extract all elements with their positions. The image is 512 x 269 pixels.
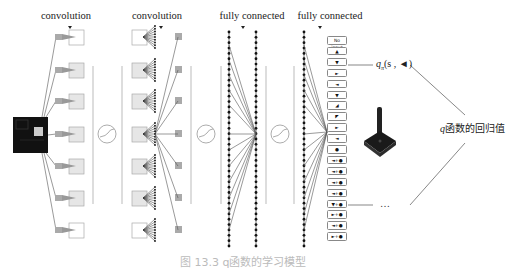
conv2-kernel [132,58,182,82]
q-regression-label: q函数的回归值 [440,120,505,135]
action-box: ▲ [327,47,347,56]
conv1-kernel [55,127,84,142]
conv1-kernel [55,94,84,109]
action-box: ► [327,123,347,132]
action-box-no-input: No input [327,36,347,45]
action-box: ◄+● [327,156,347,165]
more-actions-ellipsis: … [380,198,391,209]
separators [93,66,294,204]
action-box: ◤ [327,112,347,121]
action-box: ►+● [327,232,347,241]
action-box: ◄ [327,80,347,89]
fc-neuron-column [255,31,258,248]
action-box: ▼ [327,58,347,67]
conv2-kernel [132,25,182,49]
conv1-kernel [55,63,84,78]
conv2-kernel [132,218,182,242]
conv2-kernel [132,89,182,113]
input-frame-image [13,117,48,153]
label-arrow-icons [68,26,322,29]
activation-sigmoid-icon [98,125,289,143]
action-box: ● [327,145,347,154]
conv1-kernel [55,30,84,45]
conv2-kernel [132,154,182,178]
fully-connected-layers [228,31,327,248]
action-box: ▼+● [327,200,347,209]
action-box: ◄+● [327,221,347,230]
conv1-kernel [55,223,84,238]
conv1-kernel [55,159,84,174]
q-value-label: qπ(s , ◄) [376,58,412,71]
conv2-kernel [132,186,182,210]
action-box: ◄ [327,134,347,143]
conv1-layer [55,30,84,238]
conv2-layer [132,25,182,242]
action-box: ◢ [327,101,347,110]
figure-caption: 图 13.3 q函数的学习模型 [180,253,306,269]
conv1-kernel [55,191,84,206]
action-box: ◄+● [327,167,347,176]
action-box: ►+● [327,210,347,219]
action-box: ◄+● [327,178,347,187]
joystick-icon [364,107,396,157]
action-box: ► [327,69,347,78]
action-box: ▼ [327,91,347,100]
action-box: ◄+● [327,189,347,198]
